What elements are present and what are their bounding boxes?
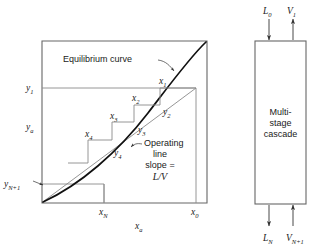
figure-background bbox=[0, 0, 314, 251]
cascade-label-line3: cascade bbox=[264, 129, 298, 139]
mccabe-thiele-diagram: y1 ya yN+1 xN xa x0 x1 x2 x3 x4 y2 y3 y4… bbox=[0, 0, 314, 251]
equilibrium-curve-label: Equilibrium curve bbox=[63, 54, 132, 64]
operating-line-label-2: line bbox=[153, 149, 167, 159]
operating-line-label-3: slope = bbox=[145, 160, 174, 170]
operating-line-label-1: Operating bbox=[144, 138, 184, 148]
cascade-label-line2: stage bbox=[269, 118, 291, 128]
operating-line-label-4: L/V bbox=[152, 171, 169, 182]
cascade-label-line1: Multi- bbox=[270, 107, 292, 117]
